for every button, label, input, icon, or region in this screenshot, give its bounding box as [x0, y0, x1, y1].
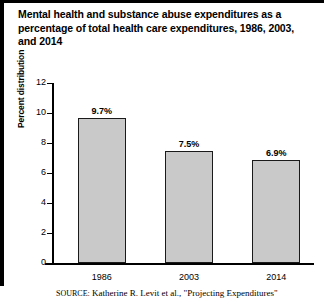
y-tick-label: 0	[41, 257, 46, 267]
x-tick-label: 1986	[92, 272, 112, 282]
plot-area: 024681012 9.7%19867.5%20036.9%2014	[52, 83, 314, 263]
y-tick-mark	[47, 83, 52, 84]
x-tick-label: 2003	[179, 272, 199, 282]
x-axis-line	[45, 263, 314, 265]
bar[interactable]: 7.5%	[165, 151, 213, 264]
bar-group: 7.5%2003	[165, 83, 213, 263]
x-tick-label: 2014	[266, 272, 286, 282]
y-tick-mark	[47, 143, 52, 144]
y-tick-mark	[47, 173, 52, 174]
y-tick-mark	[47, 233, 52, 234]
y-tick-mark	[47, 113, 52, 114]
y-tick-label: 4	[41, 197, 46, 207]
y-tick-mark	[47, 263, 52, 264]
y-tick-label: 8	[41, 137, 46, 147]
y-tick-label: 12	[36, 77, 46, 87]
bar-group: 9.7%1986	[78, 83, 126, 263]
title-line-1: Mental health and substance abuse expend…	[18, 8, 306, 22]
bar-value-label: 6.9%	[266, 148, 287, 158]
source-label: SOURCE:	[56, 289, 90, 298]
y-axis-title: Percent distribution	[16, 50, 26, 128]
bar-value-label: 9.7%	[91, 106, 112, 116]
figure-frame: Mental health and substance abuse expend…	[0, 0, 324, 286]
y-tick-label: 6	[41, 167, 46, 177]
source-note: SOURCE: Katherine R. Levit et al., "Proj…	[56, 288, 324, 299]
y-tick-label: 10	[36, 107, 46, 117]
title-line-3: and 2014	[18, 35, 306, 49]
title-line-2: percentage of total health care expendit…	[18, 22, 306, 36]
y-tick-label: 2	[41, 227, 46, 237]
bar-value-label: 7.5%	[179, 139, 200, 149]
page-title: Mental health and substance abuse expend…	[18, 8, 306, 49]
source-text: Katherine R. Levit et al., "Projecting E…	[92, 288, 278, 298]
y-axis-line	[52, 83, 54, 263]
bar[interactable]: 9.7%	[78, 118, 126, 264]
bar-group: 6.9%2014	[252, 83, 300, 263]
bar[interactable]: 6.9%	[252, 160, 300, 264]
y-tick-mark	[47, 203, 52, 204]
